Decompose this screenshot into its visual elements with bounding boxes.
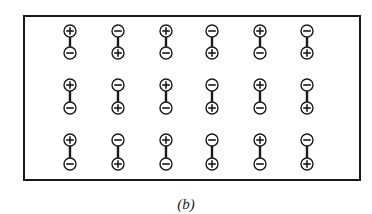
negative-charge-icon bbox=[112, 25, 124, 37]
dipole bbox=[160, 79, 172, 114]
dipole bbox=[301, 134, 313, 170]
positive-charge-icon bbox=[112, 102, 124, 114]
positive-charge-icon bbox=[160, 134, 172, 146]
dipole bbox=[64, 79, 76, 114]
dipole bbox=[64, 134, 76, 170]
negative-charge-icon bbox=[206, 25, 218, 37]
negative-charge-icon bbox=[160, 158, 172, 170]
positive-charge-icon bbox=[254, 134, 266, 146]
negative-charge-icon bbox=[206, 79, 218, 91]
positive-charge-icon bbox=[112, 158, 124, 170]
positive-charge-icon bbox=[64, 79, 76, 91]
dipole bbox=[206, 25, 218, 59]
negative-charge-icon bbox=[301, 25, 313, 37]
positive-charge-icon bbox=[254, 25, 266, 37]
positive-charge-icon bbox=[206, 158, 218, 170]
enclosing-box bbox=[24, 16, 360, 180]
negative-charge-icon bbox=[254, 158, 266, 170]
dipole-lattice-diagram bbox=[0, 0, 372, 214]
dipole bbox=[254, 134, 266, 170]
positive-charge-icon bbox=[301, 158, 313, 170]
positive-charge-icon bbox=[206, 102, 218, 114]
dipole bbox=[301, 79, 313, 114]
figure-caption: (b) bbox=[0, 196, 372, 213]
negative-charge-icon bbox=[64, 47, 76, 59]
negative-charge-icon bbox=[64, 102, 76, 114]
dipole bbox=[112, 79, 124, 114]
positive-charge-icon bbox=[64, 25, 76, 37]
positive-charge-icon bbox=[254, 79, 266, 91]
negative-charge-icon bbox=[301, 79, 313, 91]
dipole bbox=[160, 134, 172, 170]
positive-charge-icon bbox=[112, 47, 124, 59]
dipole bbox=[64, 25, 76, 59]
dipole bbox=[160, 25, 172, 59]
negative-charge-icon bbox=[112, 134, 124, 146]
dipole-array bbox=[64, 25, 313, 170]
positive-charge-icon bbox=[301, 47, 313, 59]
dipole bbox=[206, 79, 218, 114]
dipole bbox=[254, 25, 266, 59]
dipole bbox=[112, 134, 124, 170]
dipole bbox=[254, 79, 266, 114]
dipole bbox=[112, 25, 124, 59]
positive-charge-icon bbox=[301, 102, 313, 114]
dipole bbox=[206, 134, 218, 170]
negative-charge-icon bbox=[64, 158, 76, 170]
negative-charge-icon bbox=[254, 47, 266, 59]
dipole bbox=[301, 25, 313, 59]
negative-charge-icon bbox=[206, 134, 218, 146]
positive-charge-icon bbox=[64, 134, 76, 146]
positive-charge-icon bbox=[206, 47, 218, 59]
positive-charge-icon bbox=[160, 25, 172, 37]
positive-charge-icon bbox=[160, 79, 172, 91]
negative-charge-icon bbox=[254, 102, 266, 114]
negative-charge-icon bbox=[301, 134, 313, 146]
negative-charge-icon bbox=[160, 102, 172, 114]
negative-charge-icon bbox=[160, 47, 172, 59]
negative-charge-icon bbox=[112, 79, 124, 91]
